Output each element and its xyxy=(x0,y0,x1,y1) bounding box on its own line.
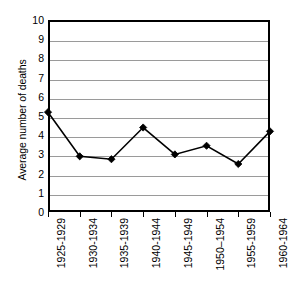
y-axis-tick-label: 10 xyxy=(22,13,44,27)
x-axis-tick-mark xyxy=(111,212,112,217)
x-axis-tick-label: 1925-1929 xyxy=(54,218,68,288)
y-axis-tick-label: 5 xyxy=(22,109,44,123)
x-axis-tick-mark xyxy=(175,212,176,217)
x-axis-tick-label: 1955-1959 xyxy=(244,218,258,288)
y-axis-tick-label: 6 xyxy=(22,90,44,104)
x-axis-tick-label: 1940-1944 xyxy=(149,218,163,288)
y-axis-tick-label: 3 xyxy=(22,147,44,161)
x-axis-tick-label: 1950–1954 xyxy=(213,218,227,288)
y-axis-tick-label: 1 xyxy=(22,186,44,200)
y-axis-tick-label: 2 xyxy=(22,167,44,181)
data-point-marker xyxy=(203,142,210,149)
x-axis-tick-mark xyxy=(207,212,208,217)
x-axis-tick-mark xyxy=(143,212,144,217)
line-chart: Average number of deaths 012345678910 19… xyxy=(0,0,290,308)
y-axis-tick-label: 8 xyxy=(22,51,44,65)
x-axis-tick-label: 1935-1939 xyxy=(117,218,131,288)
y-axis-tick-label: 0 xyxy=(22,205,44,219)
x-axis-tick-mark xyxy=(270,212,271,217)
x-axis-tick-mark xyxy=(80,212,81,217)
x-axis-tick-mark xyxy=(48,212,49,217)
y-axis-tick-label: 9 xyxy=(22,32,44,46)
x-axis-tick-label: 1960-1964 xyxy=(276,218,290,288)
x-axis-tick-label: 1945-1949 xyxy=(181,218,195,288)
data-series xyxy=(48,20,270,212)
x-axis-tick-label: 1930-1934 xyxy=(86,218,100,288)
y-axis-tick-label: 7 xyxy=(22,71,44,85)
y-axis-tick-labels: 012345678910 xyxy=(22,12,44,220)
y-axis-tick-label: 4 xyxy=(22,128,44,142)
x-axis-tick-marks xyxy=(48,212,270,217)
x-axis-tick-mark xyxy=(238,212,239,217)
x-axis-tick-labels: 1925-19291930-19341935-19391940-19441945… xyxy=(48,218,270,306)
